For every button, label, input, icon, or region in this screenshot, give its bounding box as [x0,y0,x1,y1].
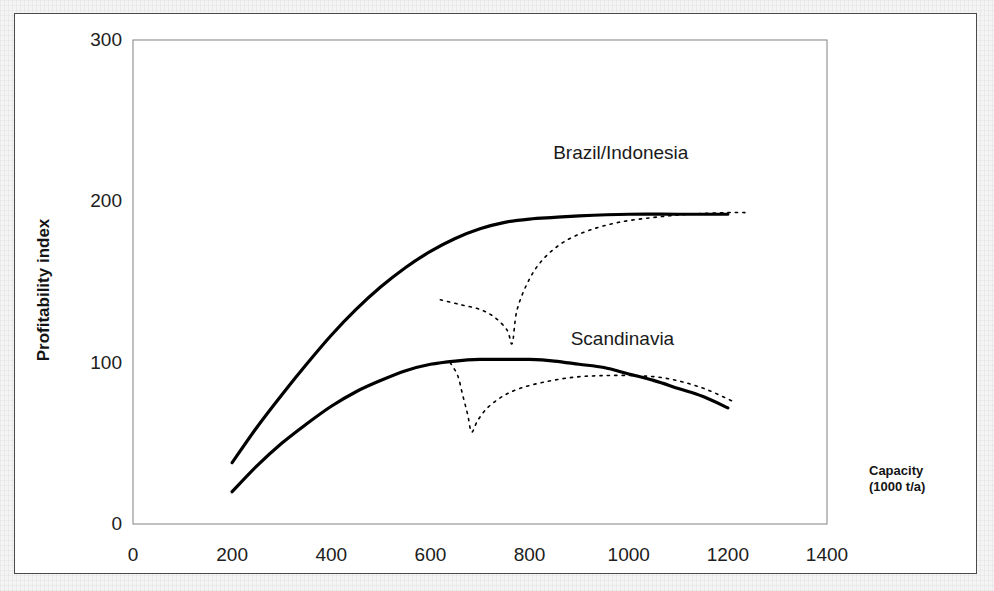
x-tick-label-1000: 1000 [608,544,650,566]
y-tick-label-0: 0 [70,513,122,535]
x-tick-label-400: 400 [315,544,347,566]
series-curve-1 [440,213,747,344]
x-tick-label-1200: 1200 [707,544,749,566]
x-tick-label-1400: 1400 [806,544,848,566]
series-curve-3 [450,363,733,432]
x-axis-title-line2: (1000 t/a) [869,479,925,495]
x-tick-label-800: 800 [514,544,546,566]
y-axis-title: Profitability index [34,219,54,362]
series-label-brazil-indonesia: Brazil/Indonesia [553,142,688,164]
series-curve-2 [232,359,728,491]
plot-stage: 01002003000200400600800100012001400 Prof… [0,0,994,591]
x-axis-title-line1: Capacity [869,463,925,479]
x-tick-label-600: 600 [415,544,447,566]
y-tick-label-100: 100 [70,352,122,374]
x-tick-label-0: 0 [128,544,139,566]
y-tick-label-200: 200 [70,190,122,212]
series-label-scandinavia: Scandinavia [571,328,675,350]
x-axis-title: Capacity (1000 t/a) [869,463,925,496]
y-tick-label-300: 300 [70,29,122,51]
data-layer [0,0,994,591]
figure-root: 01002003000200400600800100012001400 Prof… [0,0,994,591]
x-tick-label-200: 200 [216,544,248,566]
